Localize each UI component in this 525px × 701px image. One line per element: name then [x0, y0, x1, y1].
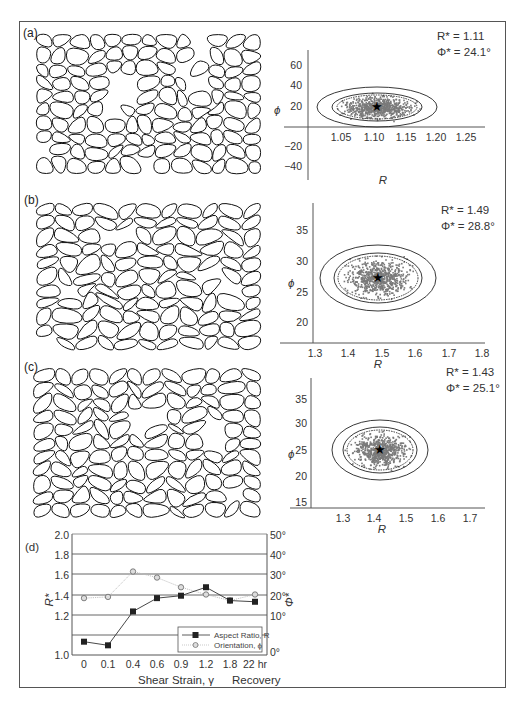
- x-tick: 0.6: [150, 658, 165, 670]
- x-tick: 1.10: [364, 131, 385, 143]
- x-tick: 1.15: [396, 131, 417, 143]
- y-tick: 30: [295, 417, 307, 429]
- x-tick: 1.4: [341, 347, 356, 359]
- x-tick: 0.1: [101, 658, 116, 670]
- x-tick: 1.8: [223, 658, 238, 670]
- mean-star-icon: ★: [372, 270, 384, 285]
- x-tick: 1.2: [199, 658, 214, 670]
- x-tick: 0: [81, 658, 87, 670]
- x-tick: 1.7: [463, 512, 478, 524]
- legend-series1: Aspect Ratio, R: [214, 631, 270, 640]
- left-y-tick: 1.8: [54, 549, 69, 561]
- x-tick: 1.6: [431, 512, 446, 524]
- y-tick: 30: [296, 255, 308, 267]
- y-tick: 35: [295, 393, 307, 405]
- scatter-plot-a: ★ 60 40 20 −20 −40 1.05 1.10 1.15 1.20 1…: [270, 40, 525, 185]
- left-y-axis-label: R*: [43, 593, 55, 606]
- y-tick: 25: [295, 444, 307, 456]
- right-y-tick: 50°: [270, 529, 286, 541]
- x-tick: 0.9: [174, 658, 189, 670]
- y-axis-label: ϕ: [274, 104, 281, 116]
- x-axis-label-recovery: Recovery: [232, 674, 281, 686]
- left-y-tick: 1.2: [54, 610, 69, 622]
- left-y-tick: 1.6: [54, 569, 69, 581]
- y-axis-label: ϕ: [288, 448, 295, 460]
- x-tick: 1.20: [426, 131, 447, 143]
- x-axis-label: R: [378, 523, 386, 535]
- x-tick: 1.5: [399, 512, 414, 524]
- y-tick: 60: [290, 59, 302, 71]
- grain-map-c: [25, 357, 270, 522]
- chart-legend: Aspect Ratio, R Orientation, ϕ: [178, 627, 270, 652]
- x-tick: 0.4: [126, 658, 141, 670]
- y-tick: 20: [296, 316, 308, 328]
- mean-star-icon: ★: [374, 442, 386, 457]
- x-tick: 1.25: [456, 131, 477, 143]
- y-tick: 40: [290, 79, 302, 91]
- scatter-plot-b: ★ 35 30 25 20 1.3 1.4 1.5 1.6 1.7 1.8 R …: [270, 195, 525, 355]
- left-y-tick: 2.0: [54, 529, 69, 541]
- y-tick: 20: [290, 100, 302, 112]
- y-tick: 20: [295, 470, 307, 482]
- grain-map-a: [28, 22, 270, 187]
- x-tick: 1.3: [308, 347, 323, 359]
- x-tick: 1.05: [331, 131, 352, 143]
- right-y-tick: 30°: [270, 569, 286, 581]
- square-marker-icon: [193, 632, 199, 638]
- x-tick: 1.3: [336, 512, 351, 524]
- panel-d-label: (d): [25, 541, 39, 553]
- right-y-tick: 0°: [270, 646, 280, 658]
- x-tick: 1.7: [442, 347, 457, 359]
- circle-marker-icon: [193, 643, 198, 648]
- x-axis-label: R: [374, 358, 382, 370]
- y-tick: 25: [296, 286, 308, 298]
- y-tick: 15: [295, 496, 307, 508]
- legend-series2: Orientation, ϕ: [214, 641, 263, 650]
- mean-star-icon: ★: [371, 99, 383, 114]
- left-y-tick: 1.0: [54, 649, 69, 661]
- x-tick: 22 hr: [243, 658, 267, 670]
- y-tick: −20: [284, 140, 302, 152]
- right-y-axis-label: Φ*: [283, 592, 295, 607]
- x-axis-label: R: [379, 174, 387, 186]
- x-tick: 1.8: [475, 347, 490, 359]
- grain-map-b: [28, 192, 270, 357]
- x-tick: 1.6: [408, 347, 423, 359]
- right-y-tick: 10°: [270, 610, 286, 622]
- y-axis-label: ϕ: [288, 277, 295, 289]
- right-y-tick: 40°: [270, 549, 286, 561]
- y-tick: −40: [284, 160, 302, 172]
- y-tick: 35: [296, 224, 308, 236]
- x-axis-label-strain: Shear Strain, γ: [138, 674, 214, 686]
- strain-line-chart: (d) 2.0 1.8 1.6 1.4 1.2 1.0 50° 40° 30° …: [0, 520, 300, 660]
- scatter-plot-c: ★ 35 30 25 20 15 1.3 1.4 1.5 1.6 1.7 R ϕ: [270, 370, 525, 525]
- left-y-tick: 1.4: [54, 590, 69, 602]
